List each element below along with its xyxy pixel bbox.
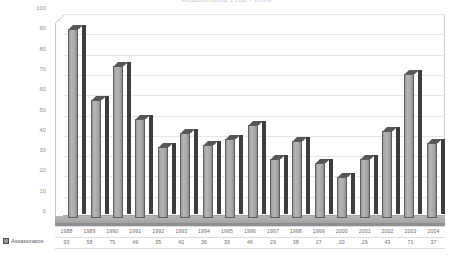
legend-label: Assassinatos xyxy=(11,238,43,244)
bar-side-face xyxy=(172,143,176,214)
bar-top-face xyxy=(159,143,173,147)
table-cell-year: 1993 xyxy=(170,226,193,237)
y-axis-tick-label: 20 xyxy=(39,167,46,173)
bar[interactable] xyxy=(427,143,437,218)
y-axis-tick-label: 10 xyxy=(39,188,46,194)
table-cell-value: 93 xyxy=(55,237,78,248)
bar-side-face xyxy=(396,127,400,214)
table-cell-year: 1999 xyxy=(307,226,330,237)
y-axis-tick-label: 30 xyxy=(39,147,46,153)
y-axis-tick-label: 90 xyxy=(39,25,46,31)
table-cell-year: 2000 xyxy=(330,226,353,237)
bar[interactable] xyxy=(68,29,78,218)
bar-side-face xyxy=(194,129,198,214)
data-table: 1988198919901991199219931994199519961997… xyxy=(55,226,445,250)
bar-side-face xyxy=(239,135,243,214)
bar-side-face xyxy=(82,25,86,214)
table-cell-year: 1998 xyxy=(284,226,307,237)
bar-side-face xyxy=(217,141,221,214)
data-table-area: Assassinatos 198819891990199119921993199… xyxy=(0,226,453,252)
bar-side-face xyxy=(351,173,355,214)
table-cell-value: 75 xyxy=(101,237,124,248)
y-axis-tick-label: 100 xyxy=(36,5,46,11)
bar-top-face xyxy=(249,121,263,125)
bar-top-face xyxy=(69,25,83,29)
bar-top-face xyxy=(361,155,375,159)
table-cell-value: 42 xyxy=(170,237,193,248)
table-cell-value: 29 xyxy=(353,237,376,248)
table-cell-year: 2002 xyxy=(376,226,399,237)
bar-top-face xyxy=(181,129,195,133)
table-divider-bottom xyxy=(55,248,445,249)
table-cell-value: 43 xyxy=(376,237,399,248)
table-row-years: 1988198919901991199219931994199519961997… xyxy=(55,226,445,237)
table-cell-year: 1997 xyxy=(261,226,284,237)
bar-side-face xyxy=(374,155,378,214)
bar-side-face xyxy=(306,137,310,214)
bar-top-face xyxy=(204,141,218,145)
table-cell-year: 2001 xyxy=(353,226,376,237)
bar-top-face xyxy=(271,155,285,159)
bar-side-face xyxy=(329,159,333,214)
bar[interactable] xyxy=(91,100,101,218)
bar-top-face xyxy=(316,159,330,163)
bar-side-face xyxy=(127,62,131,214)
bar-top-face xyxy=(383,127,397,131)
table-cell-value: 46 xyxy=(239,237,262,248)
bar[interactable] xyxy=(404,74,414,218)
bar-top-face xyxy=(338,173,352,177)
table-cell-value: 35 xyxy=(147,237,170,248)
legend: Assassinatos xyxy=(3,238,43,244)
y-axis-tick-label: 60 xyxy=(39,86,46,92)
bar-side-face xyxy=(441,139,445,214)
table-cell-year: 1988 xyxy=(55,226,78,237)
table-cell-year: 1992 xyxy=(147,226,170,237)
bar[interactable] xyxy=(292,141,302,218)
bar[interactable] xyxy=(270,159,280,218)
bar-side-face xyxy=(262,121,266,214)
table-cell-value: 36 xyxy=(193,237,216,248)
bar[interactable] xyxy=(360,159,370,218)
bar-top-face xyxy=(136,115,150,119)
y-axis-tick-label: 40 xyxy=(39,127,46,133)
bar-side-face xyxy=(284,155,288,214)
table-cell-value: 49 xyxy=(124,237,147,248)
bar-top-face xyxy=(226,135,240,139)
table-row-values: 9358754935423639462938272029437137 xyxy=(55,237,445,248)
bar[interactable] xyxy=(113,66,123,218)
bar[interactable] xyxy=(180,133,190,218)
table-cell-year: 2003 xyxy=(399,226,422,237)
table-cell-value: 37 xyxy=(422,237,445,248)
table-cell-year: 1989 xyxy=(78,226,101,237)
table-cell-year: 1991 xyxy=(124,226,147,237)
bar[interactable] xyxy=(315,163,325,218)
bar-top-face xyxy=(92,96,106,100)
bar[interactable] xyxy=(203,145,213,218)
table-cell-value: 58 xyxy=(78,237,101,248)
bar[interactable] xyxy=(135,119,145,218)
bar[interactable] xyxy=(158,147,168,218)
chart-root: Assassinatos 1988 - 2004 100908070605040… xyxy=(0,0,453,260)
bar[interactable] xyxy=(337,177,347,218)
y-axis-tick-label: 0 xyxy=(43,208,46,214)
bar-top-face xyxy=(293,137,307,141)
table-cell-value: 39 xyxy=(216,237,239,248)
table-cell-year: 1996 xyxy=(239,226,262,237)
bar-side-face xyxy=(105,96,109,214)
bar[interactable] xyxy=(382,131,392,218)
bar-top-face xyxy=(428,139,442,143)
bar-side-face xyxy=(418,70,422,214)
y-axis-tick-label: 80 xyxy=(39,46,46,52)
legend-swatch-icon xyxy=(3,238,9,244)
bar-top-face xyxy=(405,70,419,74)
y-axis: 1009080706050403020100 xyxy=(0,8,52,213)
table-cell-year: 1990 xyxy=(101,226,124,237)
bar[interactable] xyxy=(248,125,258,218)
table-cell-year: 1995 xyxy=(216,226,239,237)
table-cell-year: 2004 xyxy=(422,226,445,237)
table-cell-year: 1994 xyxy=(193,226,216,237)
table-cell-value: 71 xyxy=(399,237,422,248)
table-cell-value: 29 xyxy=(261,237,284,248)
bar[interactable] xyxy=(225,139,235,218)
bar-side-face xyxy=(149,115,153,214)
